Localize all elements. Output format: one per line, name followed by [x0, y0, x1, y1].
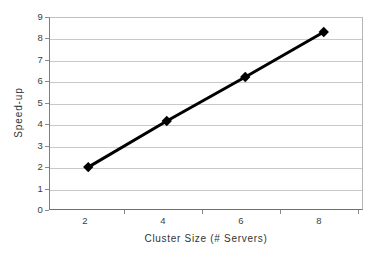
x-axis-title: Cluster Size (# Servers): [49, 233, 363, 244]
series-line: [88, 32, 323, 167]
y-axis-title: Speed-up: [13, 68, 24, 158]
data-series: [0, 0, 385, 260]
chart-figure: 9 8 7 6 5 4 3 2 1 0 2 4 6 8 C: [0, 0, 385, 260]
